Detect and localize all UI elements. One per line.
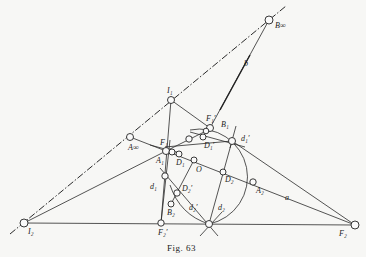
label-d1p-right: d₁′	[241, 134, 250, 143]
label-d2p-line: d₂′	[189, 203, 198, 212]
point-a-inf	[127, 134, 134, 141]
label-d1: d₁	[150, 182, 157, 191]
label-o: O	[196, 165, 202, 174]
points	[20, 16, 359, 229]
point-f2	[351, 221, 359, 229]
label-d2p-point: D₂′	[181, 184, 193, 193]
point-a1b	[169, 149, 175, 155]
line-i2-binf	[10, 6, 286, 234]
label-d2: D₂	[224, 175, 234, 184]
point-d2-bottom	[206, 221, 213, 228]
label-f2p: F₂′	[157, 228, 168, 237]
point-d1-left	[162, 173, 168, 179]
label-f1: F₁	[159, 138, 168, 147]
point-d1p-a	[186, 136, 192, 142]
point-b2	[168, 201, 174, 207]
geometric-diagram: B∞ b I₁ F₁′ B₁ A∞ F₁ d₁′ D₁′ A₁ D₁ O D₂ …	[0, 0, 366, 257]
line-i1-f1p	[171, 100, 210, 128]
label-d1: D₁	[175, 158, 185, 167]
point-b1b	[203, 128, 209, 134]
point-f1	[163, 148, 170, 155]
point-d2p	[174, 190, 180, 196]
line-b1-cross	[190, 132, 245, 147]
point-d1-prime-right	[229, 138, 236, 145]
line-i2-f1	[24, 151, 166, 223]
label-b2: B₂	[167, 208, 175, 217]
point-f2p	[158, 220, 164, 226]
point-b-inf	[265, 16, 273, 24]
point-a2	[250, 179, 256, 185]
label-f2: F₂	[338, 229, 347, 238]
label-f1p: F₁′	[205, 114, 216, 123]
label-i1: I₁	[166, 86, 173, 95]
label-b: b	[244, 59, 248, 68]
label-a-inf: A∞	[127, 143, 139, 152]
line-i2-f2	[24, 223, 355, 225]
line-d1p-row	[165, 141, 232, 147]
label-b-inf: B∞	[275, 21, 286, 30]
label-a1: A₁	[155, 156, 164, 165]
label-b1: B₁	[221, 120, 229, 129]
point-i2	[20, 219, 28, 227]
label-a2: A₂	[255, 186, 264, 195]
figure-caption: Fig. 63	[167, 243, 196, 253]
label-a: a	[285, 193, 289, 202]
point-i1	[168, 97, 175, 104]
point-d1p	[200, 134, 206, 140]
point-d1	[176, 151, 182, 157]
label-d2: d₂	[218, 203, 225, 212]
label-d1p: D₁′	[203, 141, 215, 150]
label-i2: I₂	[27, 227, 34, 236]
point-o	[191, 157, 197, 163]
